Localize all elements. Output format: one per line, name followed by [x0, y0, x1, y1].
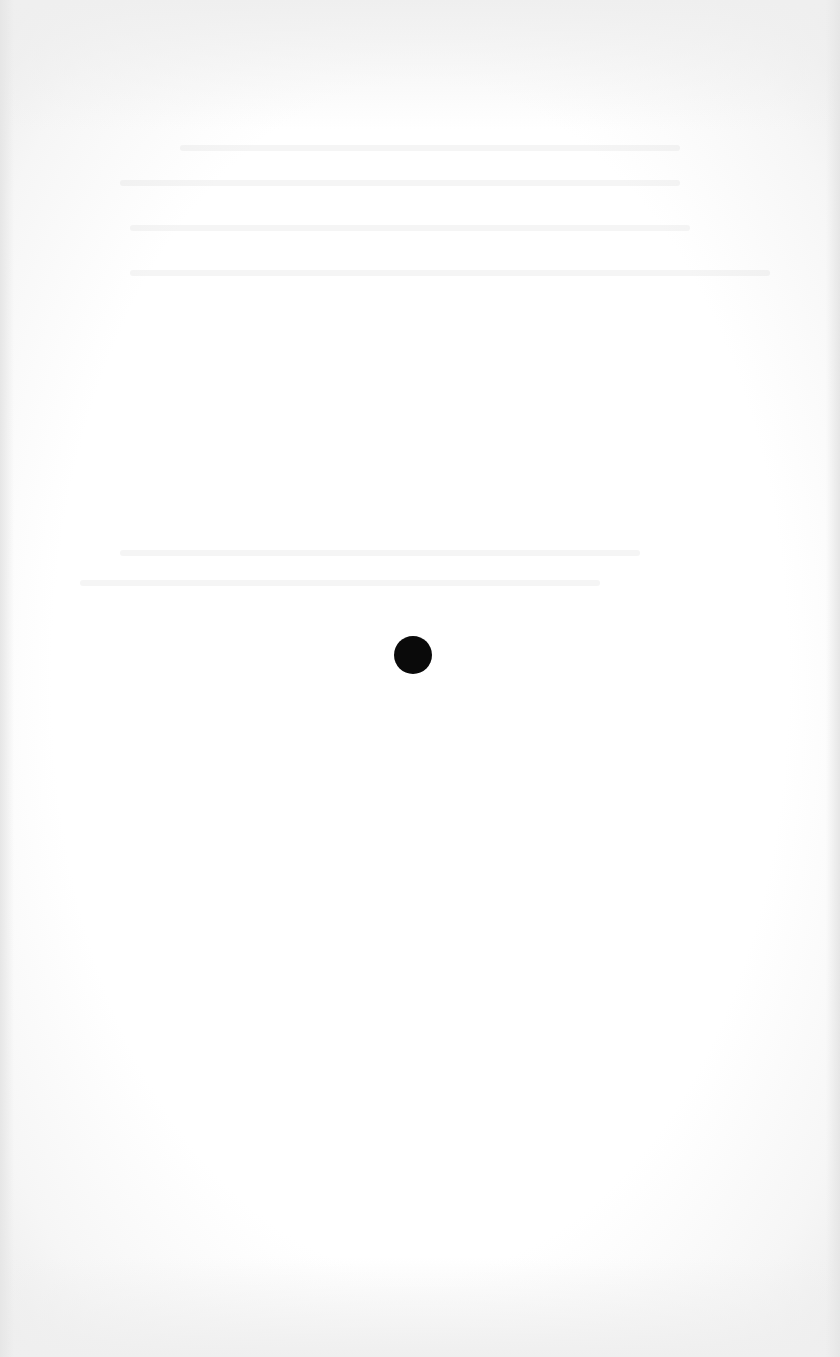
bleed-through-line [130, 270, 770, 276]
scanned-page [0, 0, 840, 1357]
bleed-through-line [80, 580, 600, 586]
scan-shadow-left [0, 0, 14, 1357]
ink-dot [394, 636, 432, 674]
scan-shadow-bottom [0, 1257, 840, 1357]
bleed-through-line [120, 550, 640, 556]
bleed-through-line [130, 225, 690, 231]
bleed-through-line [180, 145, 680, 151]
scan-shadow-top [0, 0, 840, 130]
scan-shadow-right [826, 0, 840, 1357]
bleed-through-line [120, 180, 680, 186]
